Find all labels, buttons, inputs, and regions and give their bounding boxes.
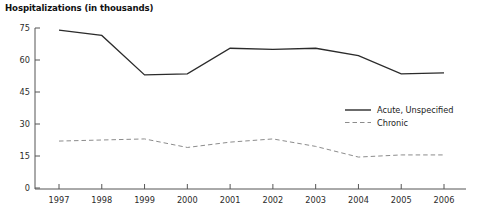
x-axis-tick-label: 1998 (91, 195, 112, 205)
x-axis-tick-label: 1997 (49, 195, 70, 205)
x-axis-group: 1997199819992000200120022003200420052006 (35, 184, 466, 205)
series-line-acute-unspecified (59, 30, 444, 75)
line-chart-plot: 01530456075 1997199819992000200120022003… (0, 0, 478, 218)
data-series-group (59, 30, 444, 157)
y-axis-tick-label: 15 (20, 151, 30, 161)
x-axis-ticks (59, 184, 444, 189)
y-axis-tick-label: 30 (20, 119, 30, 129)
legend-label-2: Chronic (377, 118, 408, 128)
x-axis-tick-label: 2006 (434, 195, 455, 205)
y-axis-tick-label: 45 (20, 87, 30, 97)
series-line-chronic (59, 139, 444, 157)
y-axis-tick-labels: 01530456075 (20, 23, 30, 193)
y-axis-group: 01530456075 (20, 23, 40, 193)
y-axis-tick-label: 0 (25, 183, 30, 193)
y-axis-ticks (35, 28, 40, 188)
y-axis-tick-label: 60 (20, 55, 30, 65)
x-axis-tick-label: 2001 (220, 195, 241, 205)
x-axis-tick-label: 2002 (262, 195, 283, 205)
x-axis-tick-label: 2000 (177, 195, 198, 205)
x-axis-tick-label: 2005 (391, 195, 412, 205)
y-axis-tick-label: 75 (20, 23, 30, 33)
legend-label-1: Acute, Unspecified (377, 105, 453, 115)
x-axis-tick-label: 2003 (305, 195, 326, 205)
chart-legend: Acute, UnspecifiedChronic (345, 105, 453, 128)
chart-container: Hospitalizations (in thousands) 01530456… (0, 0, 478, 218)
x-axis-tick-labels: 1997199819992000200120022003200420052006 (49, 195, 455, 205)
x-axis-tick-label: 2004 (348, 195, 369, 205)
x-axis-tick-label: 1999 (134, 195, 155, 205)
